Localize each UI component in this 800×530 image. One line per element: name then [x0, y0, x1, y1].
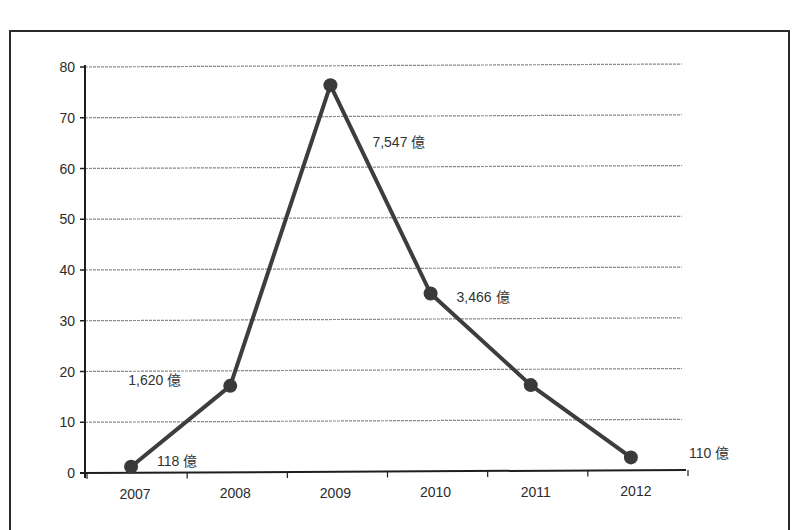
gridline — [85, 166, 682, 169]
x-tick-label: 2011 — [521, 484, 551, 500]
y-tick-label: 50 — [59, 211, 75, 227]
y-tick-label: 30 — [59, 313, 75, 329]
data-label: 7,547 億 — [372, 134, 425, 150]
data-marker — [124, 460, 138, 474]
x-tick-label: 2008 — [220, 485, 251, 501]
data-labels: 118 億1,620 億7,547 億3,466 億110 億 — [128, 134, 729, 469]
y-tick-label: 20 — [59, 364, 75, 380]
gridline — [85, 64, 682, 67]
data-marker — [424, 286, 438, 300]
x-tick-label: 2007 — [120, 486, 151, 502]
data-marker — [223, 379, 237, 393]
gridline — [85, 419, 682, 422]
y-tick-label: 10 — [59, 414, 75, 430]
x-axis-labels: 200720082009201020112012 — [120, 483, 652, 502]
gridline — [85, 267, 682, 270]
data-marker — [323, 78, 337, 92]
x-tick-label: 2010 — [420, 484, 451, 500]
gridline — [85, 216, 682, 219]
y-axis-labels: 01020304050607080 — [59, 59, 75, 481]
data-label: 118 億 — [157, 453, 197, 469]
data-label: 1,620 億 — [128, 372, 181, 388]
gridline — [85, 318, 682, 321]
y-tick-label: 60 — [59, 161, 75, 177]
data-marker — [524, 378, 538, 392]
x-tick-label: 2009 — [320, 485, 351, 501]
axes — [80, 65, 686, 478]
y-tick-label: 80 — [59, 59, 75, 75]
data-label: 110 億 — [689, 445, 729, 461]
x-tick-label: 2012 — [620, 483, 651, 499]
y-tick-label: 40 — [59, 262, 75, 278]
y-tick-label: 0 — [67, 465, 75, 481]
data-marker — [624, 450, 638, 464]
gridline — [85, 115, 682, 118]
data-label: 3,466 億 — [457, 289, 510, 305]
x-axis — [80, 470, 686, 473]
gridlines — [85, 64, 682, 422]
y-tick-label: 70 — [59, 110, 75, 126]
